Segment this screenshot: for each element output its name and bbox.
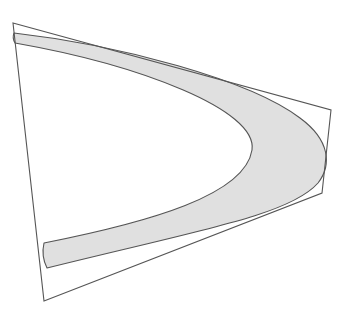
diagram-canvas (0, 0, 350, 317)
